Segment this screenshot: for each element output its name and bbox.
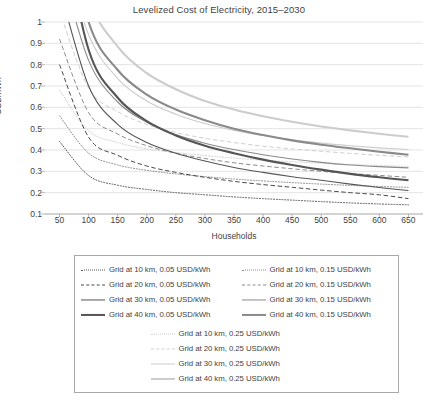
x-tick-label: 450: [285, 215, 299, 225]
legend: Grid at 10 km, 0.05 USD/kWhGrid at 20 km…: [74, 255, 399, 393]
legend-line-swatch: [81, 266, 105, 274]
x-tick-label: 500: [314, 215, 328, 225]
legend-line-swatch: [81, 281, 105, 289]
legend-line-swatch: [242, 311, 266, 319]
y-tick-label: 0.8: [30, 60, 42, 70]
x-tick-label: 650: [401, 215, 415, 225]
y-tick-label: 0.4: [30, 145, 42, 155]
x-tick-label: 400: [256, 215, 270, 225]
series-group: [60, 0, 409, 205]
legend-item[interactable]: Grid at 40 km, 0.05 USD/kWh: [75, 307, 238, 322]
series-line: [60, 11, 409, 157]
legend-item[interactable]: Grid at 10 km, 0.15 USD/kWh: [236, 262, 399, 277]
chart-page: Levelized Cost of Electricity, 2015–2030…: [0, 0, 438, 403]
x-tick-label: 550: [343, 215, 357, 225]
y-tick-label: 0.7: [30, 81, 42, 91]
legend-column-005: Grid at 10 km, 0.05 USD/kWhGrid at 20 km…: [75, 262, 238, 322]
legend-item[interactable]: Grid at 10 km, 0.05 USD/kWh: [75, 262, 238, 277]
legend-item[interactable]: Grid at 30 km, 0.25 USD/kWh: [151, 356, 323, 371]
y-tick-label: 0.9: [30, 38, 42, 48]
legend-line-swatch: [151, 345, 175, 353]
legend-item-label: Grid at 40 km, 0.05 USD/kWh: [109, 310, 210, 319]
y-tick-label: 0.5: [30, 124, 42, 134]
x-axis-tick-labels: 50100150200250300350400450500550600650: [45, 215, 423, 229]
x-tick-label: 100: [82, 215, 96, 225]
x-tick-label: 150: [111, 215, 125, 225]
series-line: [60, 0, 409, 150]
x-tick-label: 600: [372, 215, 386, 225]
legend-item[interactable]: Grid at 20 km, 0.05 USD/kWh: [75, 277, 238, 292]
legend-line-swatch: [81, 296, 105, 304]
y-axis-tick-labels: 0.10.20.30.40.50.60.70.80.91: [10, 22, 42, 214]
series-line: [60, 141, 409, 204]
x-tick-label: 200: [140, 215, 154, 225]
legend-line-swatch: [242, 281, 266, 289]
series-line: [60, 116, 409, 187]
y-tick-label: 0.1: [30, 209, 42, 219]
legend-item-label: Grid at 10 km, 0.05 USD/kWh: [109, 265, 210, 274]
legend-item-label: Grid at 10 km, 0.15 USD/kWh: [270, 265, 371, 274]
legend-columns: Grid at 10 km, 0.05 USD/kWhGrid at 20 km…: [75, 262, 398, 322]
x-tick-label: 300: [198, 215, 212, 225]
plot-area: [45, 22, 423, 214]
legend-line-swatch: [151, 375, 175, 383]
legend-item[interactable]: Grid at 40 km, 0.25 USD/kWh: [151, 371, 323, 386]
legend-item[interactable]: Grid at 10 km, 0.25 USD/kWh: [151, 326, 323, 341]
y-tick-label: 0.6: [30, 102, 42, 112]
legend-line-swatch: [151, 330, 175, 338]
legend-item[interactable]: Grid at 20 km, 0.15 USD/kWh: [236, 277, 399, 292]
legend-item-label: Grid at 20 km, 0.25 USD/kWh: [179, 344, 280, 353]
line-chart-svg: [45, 22, 423, 214]
x-tick-label: 350: [227, 215, 241, 225]
legend-line-swatch: [81, 311, 105, 319]
y-axis-title: USD/kWh: [0, 77, 3, 114]
x-tick-label: 50: [55, 215, 64, 225]
legend-item[interactable]: Grid at 30 km, 0.15 USD/kWh: [236, 292, 399, 307]
legend-line-swatch: [242, 266, 266, 274]
legend-item-label: Grid at 40 km, 0.25 USD/kWh: [179, 374, 280, 383]
y-tick-label: 0.3: [30, 166, 42, 176]
y-tick-label: 0.2: [30, 188, 42, 198]
legend-column-015: Grid at 10 km, 0.15 USD/kWhGrid at 20 km…: [236, 262, 399, 322]
legend-column-025: Grid at 10 km, 0.25 USD/kWhGrid at 20 km…: [75, 326, 398, 386]
legend-item-label: Grid at 20 km, 0.15 USD/kWh: [270, 280, 371, 289]
series-line: [60, 0, 409, 168]
legend-line-swatch: [242, 296, 266, 304]
legend-item[interactable]: Grid at 20 km, 0.25 USD/kWh: [151, 341, 323, 356]
x-axis-title: Households: [45, 231, 423, 241]
legend-item[interactable]: Grid at 30 km, 0.05 USD/kWh: [75, 292, 238, 307]
legend-item[interactable]: Grid at 40 km, 0.15 USD/kWh: [236, 307, 399, 322]
page-title: Levelized Cost of Electricity, 2015–2030: [0, 4, 438, 15]
x-tick-label: 250: [169, 215, 183, 225]
legend-item-label: Grid at 30 km, 0.25 USD/kWh: [179, 359, 280, 368]
legend-item-label: Grid at 20 km, 0.05 USD/kWh: [109, 280, 210, 289]
legend-item-label: Grid at 10 km, 0.25 USD/kWh: [179, 329, 280, 338]
legend-item-label: Grid at 30 km, 0.15 USD/kWh: [270, 295, 371, 304]
legend-item-label: Grid at 40 km, 0.15 USD/kWh: [270, 310, 371, 319]
legend-item-label: Grid at 30 km, 0.05 USD/kWh: [109, 295, 210, 304]
series-line: [60, 0, 409, 137]
legend-line-swatch: [151, 360, 175, 368]
